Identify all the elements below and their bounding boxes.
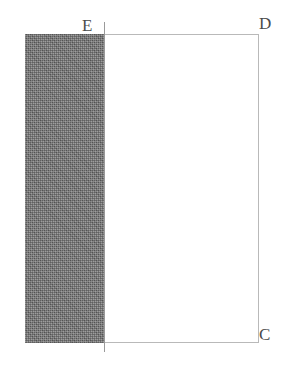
shaded-left-region <box>25 34 104 343</box>
vertical-divider-line <box>104 22 105 352</box>
vertex-label-e: E <box>82 17 92 34</box>
vertex-label-d: D <box>259 15 271 32</box>
vertex-label-c: C <box>259 326 270 343</box>
figure-canvas: E D C <box>0 0 293 371</box>
